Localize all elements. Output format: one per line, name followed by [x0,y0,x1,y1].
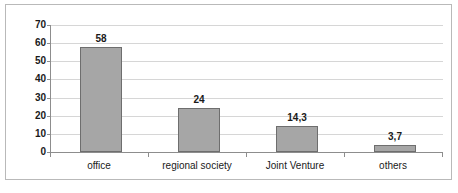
y-tick-label-70: 70 [6,20,46,30]
bar-others [374,145,416,152]
x-category-label-others: others [344,160,442,171]
bar-regional-society [178,108,220,152]
y-axis-tick-labels: 70 60 50 40 30 20 10 0 [6,25,46,152]
y-tick-label-0: 0 [6,147,46,157]
y-tick-label-40: 40 [6,74,46,84]
y-tick-label-20: 20 [6,111,46,121]
bar-value-regional-society: 24 [178,94,220,105]
bar-value-joint-venture: 14,3 [276,112,318,123]
plot-area: 58 24 14,3 3,7 [51,25,443,152]
x-tick-mark-0 [50,153,51,157]
bar-joint-venture [276,126,318,152]
y-tick-label-10: 10 [6,129,46,139]
x-category-label-regional-society: regional society [148,160,246,171]
chart-frame: 70 60 50 40 30 20 10 0 58 24 14,3 3,7 [5,4,452,180]
y-tick-label-60: 60 [6,38,46,48]
x-category-label-joint-venture: Joint Venture [246,160,344,171]
x-tick-mark-4 [442,153,443,157]
y-tick-label-30: 30 [6,93,46,103]
gridline-70 [51,25,443,26]
y-tick-label-50: 50 [6,56,46,66]
bar-value-others: 3,7 [374,131,416,142]
bar-office [80,47,122,152]
x-tick-mark-2 [246,153,247,157]
x-category-label-office: office [50,160,148,171]
x-tick-mark-3 [344,153,345,157]
bar-value-office: 58 [80,33,122,44]
x-tick-mark-1 [148,153,149,157]
